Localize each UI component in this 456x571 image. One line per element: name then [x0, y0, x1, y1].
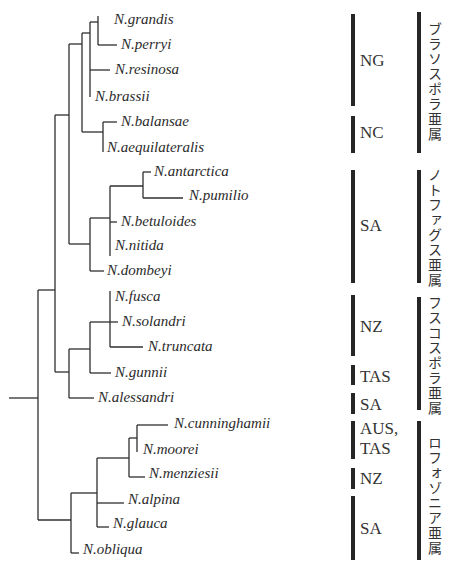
leaf-label: N.menziesii [149, 465, 219, 481]
leaf-label: N.solandri [122, 313, 186, 329]
leaf-label: N.resinosa [115, 61, 179, 77]
subgenus-bar [417, 12, 421, 153]
region-label: SA [360, 217, 382, 234]
region-label: NZ [360, 318, 383, 335]
leaf-label: N.truncata [148, 338, 213, 354]
leaf-label: N.moorei [143, 441, 199, 457]
region-label: NZ [360, 470, 383, 487]
leaf-label: N.cunninghamii [174, 415, 270, 431]
leaf-label: N.alessandri [98, 389, 174, 405]
region-label: AUS, [360, 420, 398, 437]
subgenus-bar [417, 421, 421, 560]
leaf-label: N.antarctica [154, 163, 229, 179]
region-label: SA [360, 520, 382, 537]
leaf-label: N.dombeyi [107, 262, 172, 278]
region-label: NG [360, 52, 385, 69]
region-label: TAS [360, 368, 391, 385]
leaf-label: N.fusca [115, 288, 160, 304]
region-bar [351, 421, 355, 459]
leaf-label: N.balansae [121, 113, 189, 129]
region-bar [351, 14, 355, 106]
leaf-label: N.gunnii [115, 364, 167, 380]
region-bar [351, 468, 355, 489]
leaf-label: N.aequilateralis [107, 139, 204, 155]
region-bar [351, 393, 355, 414]
region-bar [351, 116, 355, 153]
subgenus-label: フスコスポラ亜属 [426, 296, 442, 416]
subgenus-bar [417, 170, 421, 283]
phylogenetic-tree [0, 0, 456, 571]
leaf-label: N.betuloides [121, 213, 196, 229]
leaf-label: N.nitida [115, 237, 164, 253]
subgenus-bar [417, 297, 421, 410]
leaf-label: N.glauca [113, 515, 168, 531]
leaf-label: N.alpina [128, 491, 180, 507]
leaf-label: N.obliqua [83, 541, 143, 557]
region-bar [351, 295, 355, 356]
leaf-label: N.grandis [114, 11, 174, 27]
region-bar [351, 170, 355, 283]
region-label: SA [360, 396, 382, 413]
region-label: TAS [360, 440, 391, 457]
leaf-label: N.pumilio [189, 187, 249, 203]
subgenus-label: ロフォゾニア亜属 [426, 436, 442, 556]
leaf-label: N.brassii [95, 88, 150, 104]
region-label: NC [360, 124, 384, 141]
region-bar [351, 365, 355, 385]
subgenus-label: ノトファグス亜属 [426, 168, 442, 288]
leaf-label: N.perryi [121, 36, 171, 52]
subgenus-label: ブラソスポラ亜属 [426, 22, 442, 142]
region-bar [351, 496, 355, 560]
